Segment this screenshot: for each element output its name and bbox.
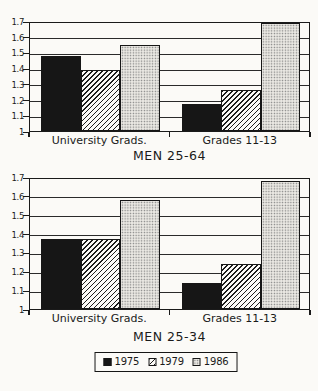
y-axis-tick xyxy=(23,178,29,179)
bar-1975 xyxy=(41,239,81,309)
y-axis-tick xyxy=(23,100,29,101)
x-category-label: Grades 11-13 xyxy=(202,312,277,325)
bar-1986 xyxy=(261,23,301,131)
x-category-label: University Grads. xyxy=(52,312,147,325)
y-tick-label: 1.4 xyxy=(0,230,24,240)
legend-swatch-1975 xyxy=(104,358,112,366)
y-axis-tick xyxy=(23,272,29,273)
bar-1986 xyxy=(120,45,160,131)
legend-label: 1979 xyxy=(159,356,184,367)
bar-1986 xyxy=(261,181,301,309)
y-axis-tick xyxy=(23,291,29,292)
bar-1979 xyxy=(81,70,121,131)
y-axis-tick xyxy=(23,37,29,38)
legend-item: 1979 xyxy=(148,356,184,367)
y-tick-label: 1.4 xyxy=(0,64,24,74)
y-axis-tick xyxy=(23,253,29,254)
y-axis-tick xyxy=(23,22,29,23)
plot-area xyxy=(29,22,310,132)
legend-label: 1986 xyxy=(204,356,229,367)
legend-swatch-1986 xyxy=(193,358,201,366)
chart-title: MEN 25-34 xyxy=(133,329,206,344)
legend: 197519791986 xyxy=(95,352,238,372)
y-axis-tick xyxy=(23,234,29,235)
chart-title: MEN 25-64 xyxy=(133,148,206,163)
y-axis-tick xyxy=(23,116,29,117)
x-axis-tick xyxy=(309,132,311,137)
bar-1986 xyxy=(120,200,160,309)
y-tick-label: 1.1 xyxy=(0,286,24,296)
bar-1975 xyxy=(41,56,81,131)
legend-swatch-1979 xyxy=(148,358,156,366)
y-axis-tick xyxy=(23,53,29,54)
x-axis-tick xyxy=(169,310,171,315)
bar-1975 xyxy=(182,104,222,131)
y-tick-label: 1.7 xyxy=(0,173,24,183)
y-tick-label: 1 xyxy=(0,127,24,137)
y-axis-tick xyxy=(23,196,29,197)
plot-area xyxy=(29,178,310,310)
bar-1979 xyxy=(221,264,261,309)
legend-item: 1986 xyxy=(193,356,229,367)
x-axis-tick xyxy=(309,310,311,315)
y-tick-label: 1.2 xyxy=(0,267,24,277)
legend-label: 1975 xyxy=(115,356,140,367)
y-tick-label: 1.6 xyxy=(0,192,24,202)
x-axis-tick xyxy=(169,132,171,137)
y-axis-tick xyxy=(23,84,29,85)
bar-1979 xyxy=(81,239,121,309)
y-tick-label: 1.5 xyxy=(0,48,24,58)
bar-1975 xyxy=(182,283,222,309)
x-axis-tick xyxy=(28,310,30,315)
y-tick-label: 1 xyxy=(0,305,24,315)
y-tick-label: 1.7 xyxy=(0,17,24,27)
y-tick-label: 1.5 xyxy=(0,211,24,221)
y-axis-tick xyxy=(23,215,29,216)
bar-1979 xyxy=(221,90,261,131)
y-axis-tick xyxy=(23,69,29,70)
x-category-label: Grades 11-13 xyxy=(202,134,277,147)
y-tick-label: 1.1 xyxy=(0,111,24,121)
y-tick-label: 1.3 xyxy=(0,248,24,258)
x-category-label: University Grads. xyxy=(52,134,147,147)
scanned-bar-chart-figure: University Grads.Grades 11-131.71.61.51.… xyxy=(0,0,318,391)
y-tick-label: 1.6 xyxy=(0,33,24,43)
y-tick-label: 1.3 xyxy=(0,80,24,90)
x-axis-tick xyxy=(28,132,30,137)
y-tick-label: 1.2 xyxy=(0,96,24,106)
legend-item: 1975 xyxy=(104,356,140,367)
